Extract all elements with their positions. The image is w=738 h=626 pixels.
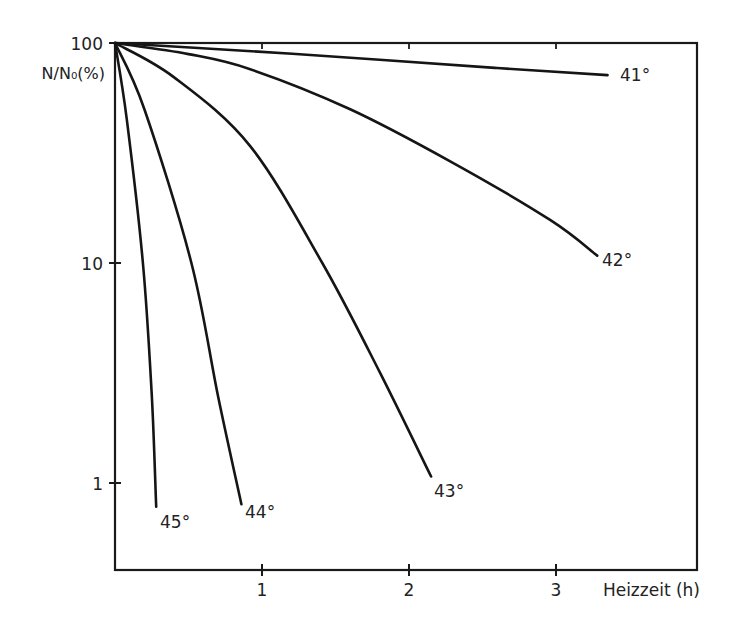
curves-group [115,43,608,507]
x-axis-title: Heizzeit (h) [603,580,700,600]
y-axis-title: N/N₀(%) [42,64,105,83]
curve-43c [115,43,431,477]
x-tick-label-2: 2 [404,580,415,600]
x-tick-label-3: 3 [551,580,562,600]
x-tick-label-1: 1 [257,580,268,600]
curve-44c [115,43,241,504]
curve-label-41: 41° [620,65,650,85]
y-tick-label-10: 10 [81,254,103,274]
curve-42c [115,43,597,256]
survival-curve-chart: 100 N/N₀(%) 10 1 1 2 3 Heizzeit (h) 41° … [0,0,738,626]
curve-45c [115,43,156,507]
y-tick-label-100: 100 [71,34,103,54]
curve-label-42: 42° [602,250,632,270]
y-tick-label-1: 1 [92,474,103,494]
curve-label-44: 44° [245,502,275,522]
curve-label-43: 43° [434,481,464,501]
curve-label-45: 45° [160,512,190,532]
curve-41c [115,43,608,75]
